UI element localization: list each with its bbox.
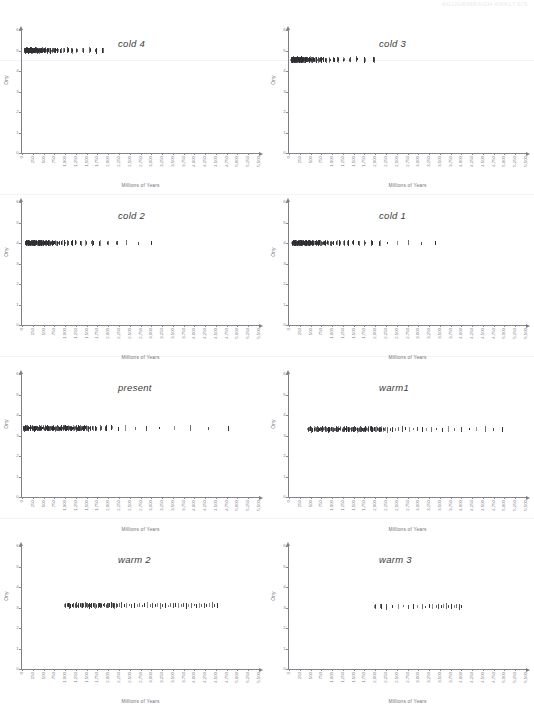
x-axis-minor-tick <box>59 497 60 498</box>
x-axis-minor-tick <box>328 153 329 154</box>
data-point <box>493 428 494 431</box>
x-axis-minor-tick <box>37 669 38 670</box>
x-axis-minor-tick <box>334 669 335 670</box>
x-axis-minor-tick <box>166 497 167 498</box>
y-axis-tick-label: 1 <box>16 474 18 478</box>
x-axis-minor-tick <box>315 669 316 670</box>
x-axis-minor-tick <box>59 153 60 154</box>
x-axis-minor-tick <box>298 497 299 498</box>
x-axis-minor-tick <box>388 497 389 498</box>
x-axis-tick-label: 3,000 <box>149 156 153 167</box>
x-axis-minor-tick <box>181 669 182 670</box>
x-axis-minor-tick <box>72 669 73 670</box>
x-axis-minor-tick <box>291 497 292 498</box>
x-axis-title: Millions of Years <box>289 355 526 360</box>
x-axis-minor-tick <box>511 497 512 498</box>
y-axis-tick-label: 0 <box>283 151 285 155</box>
x-axis-minor-tick <box>351 669 352 670</box>
x-axis-minor-tick <box>313 497 314 498</box>
data-point <box>405 427 406 430</box>
x-axis-tick-label: 2,500 <box>395 672 399 683</box>
data-point <box>208 427 209 430</box>
x-axis-minor-tick <box>410 497 411 498</box>
x-axis-tick-label: 5,000 <box>502 328 506 339</box>
x-axis-minor-tick <box>498 325 499 326</box>
y-axis-tick <box>19 567 22 568</box>
y-axis-tick-label: 1 <box>16 130 18 134</box>
x-axis-minor-tick <box>464 497 465 498</box>
y-axis-tick-label: 5 <box>16 48 18 52</box>
x-axis-minor-tick <box>489 153 490 154</box>
data-point <box>86 242 87 244</box>
data-point <box>142 605 143 607</box>
x-axis-minor-tick <box>496 497 497 498</box>
x-axis-minor-tick <box>328 669 329 670</box>
x-axis-tick-label: 1,250 <box>341 500 345 511</box>
x-axis-tick-label: 4,500 <box>214 328 218 339</box>
y-axis-tick-label: 4 <box>283 585 285 589</box>
y-axis-tick <box>19 284 22 285</box>
x-axis-minor-tick <box>158 325 159 326</box>
data-point <box>372 241 373 245</box>
data-point <box>96 49 97 53</box>
x-axis-minor-tick <box>175 153 176 154</box>
x-axis-minor-tick <box>392 325 393 326</box>
y-axis-tick <box>19 305 22 306</box>
x-axis-tick-label: 1,250 <box>74 156 78 167</box>
x-axis-minor-tick <box>356 497 357 498</box>
data-point <box>502 427 503 432</box>
x-axis-minor-tick <box>349 153 350 154</box>
x-axis-minor-tick <box>302 497 303 498</box>
x-axis-minor-tick <box>414 325 415 326</box>
x-axis-minor-tick <box>203 325 204 326</box>
x-axis-tick-label: 4,000 <box>192 500 196 511</box>
data-point <box>65 242 66 244</box>
x-axis-tick-label: 750 <box>319 500 323 507</box>
x-axis-tick-label: 4,750 <box>225 156 229 167</box>
x-axis-minor-tick <box>253 325 254 326</box>
x-axis-minor-tick <box>164 325 165 326</box>
x-axis-minor-tick <box>459 153 460 154</box>
x-axis-minor-tick <box>250 153 251 154</box>
x-axis-minor-tick <box>84 153 85 154</box>
data-point <box>100 240 101 246</box>
x-axis-tick-label: 1,750 <box>95 672 99 683</box>
x-axis-minor-tick <box>121 153 122 154</box>
data-point <box>422 427 423 433</box>
data-point <box>188 604 189 607</box>
x-axis-tick-label: 1,750 <box>362 672 366 683</box>
y-axis-tick-label: 6 <box>16 200 18 204</box>
x-axis-minor-tick <box>423 153 424 154</box>
x-axis-minor-tick <box>390 497 391 498</box>
chart-panel-present: presentOny012345602505007501,0001,2501,5… <box>0 362 267 534</box>
x-axis-minor-tick <box>220 497 221 498</box>
x-axis-minor-tick <box>377 325 378 326</box>
x-axis-minor-tick <box>240 153 241 154</box>
x-axis-minor-tick <box>26 153 27 154</box>
x-axis-minor-tick <box>358 497 359 498</box>
y-axis-tick <box>286 477 289 478</box>
x-axis-minor-tick <box>489 325 490 326</box>
x-axis-tick-label: 5,250 <box>513 672 517 683</box>
x-axis-minor-tick <box>336 497 337 498</box>
x-axis-minor-tick <box>377 669 378 670</box>
x-axis-minor-tick <box>356 669 357 670</box>
x-axis-tick-label: 500 <box>308 500 312 507</box>
x-axis-title: Millions of Years <box>22 183 259 188</box>
x-axis-minor-tick <box>166 325 167 326</box>
data-point <box>461 605 462 608</box>
x-axis-minor-tick <box>420 497 421 498</box>
data-point <box>365 242 366 244</box>
y-axis-tick <box>286 305 289 306</box>
x-axis-minor-tick <box>169 669 170 670</box>
x-axis-minor-tick <box>485 497 486 498</box>
x-axis-minor-tick <box>59 669 60 670</box>
x-axis-minor-tick <box>104 669 105 670</box>
x-axis-minor-tick <box>197 153 198 154</box>
y-axis-tick-label: 3 <box>16 261 18 265</box>
x-axis-minor-tick <box>326 325 327 326</box>
x-axis-minor-tick <box>67 497 68 498</box>
x-axis-tick-label: 1,500 <box>84 328 88 339</box>
y-axis-tick <box>286 395 289 396</box>
x-axis-tick-label: 1,000 <box>330 156 334 167</box>
